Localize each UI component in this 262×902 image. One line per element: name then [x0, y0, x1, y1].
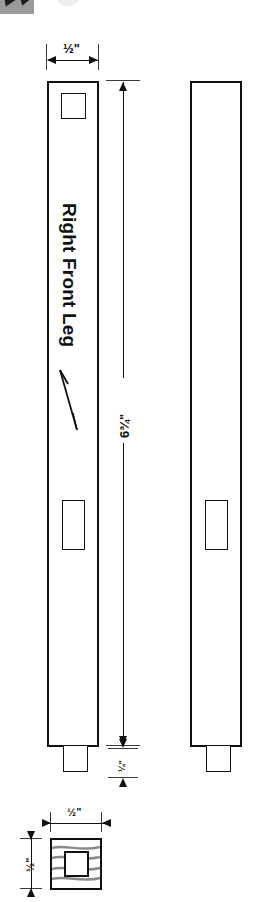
side-view-middle-mortise — [205, 500, 228, 550]
faint-ellipse-icon — [57, 0, 79, 6]
chevron-glyph — [0, 0, 17, 9]
section-height-dimension-label: ½" — [25, 858, 36, 872]
part-name-label: Right Front Leg — [58, 203, 80, 347]
tenon-extension-line-top — [108, 748, 138, 749]
width-arrowhead-left — [47, 56, 56, 64]
section-height-arrowhead-bottom — [27, 888, 35, 897]
section-height-arrowhead-top — [27, 831, 35, 840]
leg-cross-section — [50, 838, 102, 890]
section-width-arrowhead-left — [42, 819, 51, 827]
right-front-leg-side-view — [190, 81, 242, 747]
width-extension-line-right — [98, 44, 99, 70]
width-arrowhead-right — [89, 56, 98, 64]
length-dimension-line-upper — [123, 82, 125, 378]
tenon-dimension-label: ¼" — [118, 760, 127, 772]
middle-mortise — [62, 500, 85, 550]
tenon-arrowhead-top — [119, 739, 127, 748]
length-arrowhead-top — [119, 82, 127, 91]
section-width-arrowhead-right — [102, 819, 111, 827]
cropped-thumbnail-icon — [0, 0, 34, 14]
tenon-arrowhead-bottom — [119, 778, 127, 787]
section-width-dimension-label: ½" — [67, 807, 81, 818]
top-mortise — [61, 93, 86, 119]
side-view-bottom-tenon — [206, 745, 231, 772]
front-view-width-dimension-label: ½" — [63, 42, 80, 55]
length-dimension-line-lower — [123, 443, 125, 745]
grain-direction-arrow-icon — [52, 358, 86, 436]
chevron-glyph — [16, 0, 33, 8]
section-width-dimension-line — [47, 823, 105, 825]
front-view-length-dimension-label: 6¾" — [118, 414, 131, 438]
bottom-tenon — [63, 745, 88, 772]
